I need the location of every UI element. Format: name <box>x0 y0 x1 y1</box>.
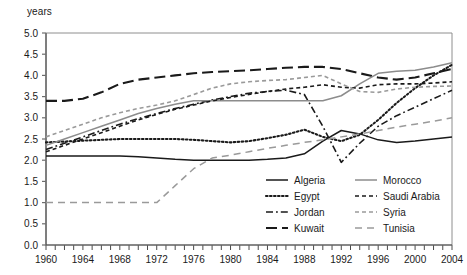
y-tick-label: 2.5 <box>24 134 38 145</box>
y-axis-tick-labels: 0.00.51.01.52.02.53.03.54.04.55.0 <box>24 28 38 251</box>
legend-label-morocco: Morocco <box>383 175 422 186</box>
x-tick-label: 1996 <box>367 254 390 265</box>
line-chart: 0.00.51.01.52.02.53.03.54.04.55.0 196019… <box>0 0 467 275</box>
y-tick-label: 1.0 <box>24 197 38 208</box>
legend-label-syria: Syria <box>383 207 406 218</box>
y-tick-label: 0.5 <box>24 218 38 229</box>
series-line-algeria <box>46 131 452 161</box>
x-tick-label: 1988 <box>293 254 316 265</box>
y-tick-label: 3.0 <box>24 112 38 123</box>
x-tick-label: 1980 <box>219 254 242 265</box>
x-axis-tick-marks <box>46 245 452 250</box>
legend-label-jordan: Jordan <box>294 207 325 218</box>
y-tick-label: 5.0 <box>24 28 38 39</box>
y-tick-label: 2.0 <box>24 155 38 166</box>
x-axis-tick-labels: 1960196419681972197619801984198819921996… <box>35 254 464 265</box>
x-tick-label: 1968 <box>109 254 132 265</box>
x-tick-label: 1976 <box>183 254 206 265</box>
x-tick-label: 2000 <box>404 254 427 265</box>
x-tick-label: 1992 <box>330 254 353 265</box>
x-tick-label: 1964 <box>72 254 95 265</box>
x-tick-label: 2004 <box>441 254 464 265</box>
legend-label-tunisia: Tunisia <box>383 223 415 234</box>
x-tick-label: 1960 <box>35 254 58 265</box>
y-tick-label: 3.5 <box>24 91 38 102</box>
legend-label-algeria: Algeria <box>294 175 326 186</box>
y-tick-label: 0.0 <box>24 240 38 251</box>
y-tick-label: 4.5 <box>24 49 38 60</box>
y-tick-label: 4.0 <box>24 70 38 81</box>
x-tick-label: 1972 <box>146 254 169 265</box>
chart-root: years 0.00.51.01.52.02.53.03.54.04.55.0 … <box>0 0 467 275</box>
legend-label-kuwait: Kuwait <box>294 223 324 234</box>
x-tick-label: 1984 <box>256 254 279 265</box>
legend-label-egypt: Egypt <box>294 191 320 202</box>
legend-label-saudi-arabia: Saudi Arabia <box>383 191 440 202</box>
y-tick-label: 1.5 <box>24 176 38 187</box>
series-line-morocco <box>46 63 452 146</box>
chart-legend: AlgeriaEgyptJordanKuwaitMoroccoSaudi Ara… <box>266 175 440 234</box>
